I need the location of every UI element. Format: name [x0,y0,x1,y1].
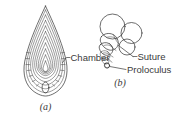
proloculus-label: Proloculus [127,64,172,75]
initial-chamber-a [42,82,49,93]
chamber-circle-medium [119,39,135,55]
figure-svg: (a) Chamber [0,0,190,119]
panel-b-caption: (b) [114,77,126,89]
panel-a-caption: (a) [40,101,52,113]
proloculus-leader-line [110,67,126,70]
suture-callout: Suture [119,46,166,62]
panel-a-fusiform-test: (a) [24,6,67,113]
figure-container: (a) Chamber [0,0,190,119]
chamber-outline-inner [43,61,48,72]
chamber-outline [42,55,50,72]
chamber-callout: Chamber [63,52,110,63]
chamber-outline-outer [24,6,67,96]
chamber-segment [100,33,118,50]
proloculus-callout: Proloculus [110,64,172,75]
suture-label: Suture [138,51,166,62]
